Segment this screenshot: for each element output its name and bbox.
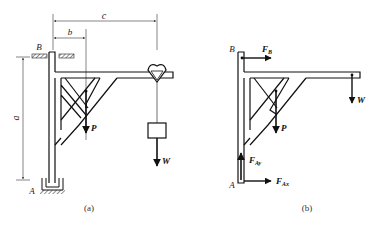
label-c: c [102, 10, 107, 21]
label-w: W [357, 95, 366, 105]
label-p: P [281, 123, 287, 133]
label-fb: FB [261, 44, 272, 55]
label-w: W [162, 156, 171, 166]
label-fax: FAx [275, 176, 289, 187]
figure-b: FB B W P FAy FAx A (b) [228, 44, 366, 213]
label-point-a: A [28, 186, 35, 196]
weight-block [148, 123, 166, 138]
label-point-b: B [229, 44, 235, 54]
caption-b: (b) [302, 203, 313, 213]
dimension-a: a [10, 57, 30, 180]
label-p: P [91, 123, 97, 133]
label-point-a: A [228, 180, 235, 190]
diagram-canvas: c b a B [0, 0, 370, 226]
pulley [148, 65, 166, 82]
label-point-b: B [36, 42, 42, 52]
support-a: A [28, 178, 65, 196]
figure-a: c b a B [10, 10, 173, 213]
caption-a: (a) [84, 203, 94, 213]
label-a: a [10, 116, 21, 121]
label-b: b [68, 27, 73, 37]
label-fay: FAy [248, 155, 262, 166]
